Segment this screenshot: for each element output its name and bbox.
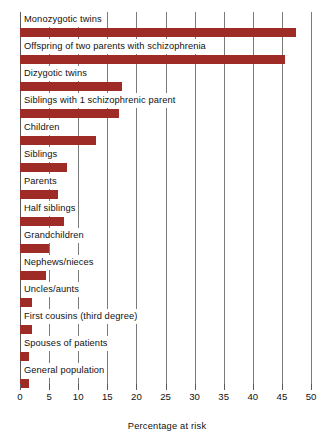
bar-category-label: Uncles/aunts xyxy=(23,282,81,297)
x-tick-mark xyxy=(136,384,137,390)
x-tick-label: 45 xyxy=(277,391,288,402)
x-tick-mark xyxy=(282,384,283,390)
x-tick-label: 0 xyxy=(17,391,22,402)
x-axis-title: Percentage at risk xyxy=(0,421,334,431)
bar-category-label: Siblings xyxy=(23,147,59,162)
x-tick-mark xyxy=(20,384,21,390)
bar-row: Dizygotic twins xyxy=(20,66,311,93)
x-tick-mark xyxy=(195,384,196,390)
bar-row: Siblings xyxy=(20,147,311,174)
bar xyxy=(20,271,46,280)
bar xyxy=(20,109,119,118)
bar-category-label: Half siblings xyxy=(23,201,77,216)
bar xyxy=(20,352,29,361)
bar xyxy=(20,325,32,334)
bar xyxy=(20,190,58,199)
bar xyxy=(20,163,67,172)
bar-category-label: Siblings with 1 schizophrenic parent xyxy=(23,93,177,108)
bar-category-label: Nephews/nieces xyxy=(23,255,96,270)
bar-row: Monozygotic twins xyxy=(20,12,311,39)
bar xyxy=(20,28,296,37)
bar-category-label: Grandchildren xyxy=(23,228,86,243)
x-tick-mark xyxy=(107,384,108,390)
bar-row: Siblings with 1 schizophrenic parent xyxy=(20,93,311,120)
bar-category-label: Spouses of patients xyxy=(23,336,110,351)
bar-row: Half siblings xyxy=(20,201,311,228)
x-tick-mark xyxy=(49,384,50,390)
x-tick-mark xyxy=(253,384,254,390)
x-tick-mark xyxy=(166,384,167,390)
risk-bar-chart: Monozygotic twinsOffspring of two parent… xyxy=(0,0,334,446)
bar-category-label: Children xyxy=(23,120,61,135)
x-axis: 05101520253035404550 xyxy=(20,390,311,408)
x-tick-label: 10 xyxy=(73,391,84,402)
bar xyxy=(20,379,29,388)
x-tick-label: 30 xyxy=(189,391,200,402)
bar-row: Offspring of two parents with schizophre… xyxy=(20,39,311,66)
bar xyxy=(20,298,32,307)
bar xyxy=(20,244,49,253)
bar-row: Children xyxy=(20,120,311,147)
x-tick-label: 40 xyxy=(247,391,258,402)
bar-category-label: General population xyxy=(23,363,106,378)
bar-row: Uncles/aunts xyxy=(20,282,311,309)
bar-category-label: Parents xyxy=(23,174,59,189)
x-tick-label: 25 xyxy=(160,391,171,402)
x-tick-label: 20 xyxy=(131,391,142,402)
x-tick-label: 50 xyxy=(306,391,317,402)
bar-category-label: Offspring of two parents with schizophre… xyxy=(23,39,208,54)
gridline-50 xyxy=(311,12,312,390)
x-tick-mark xyxy=(224,384,225,390)
bar xyxy=(20,217,64,226)
bar-category-label: First cousins (third degree) xyxy=(23,309,139,324)
x-tick-label: 35 xyxy=(218,391,229,402)
x-tick-mark xyxy=(311,384,312,390)
bar-row: Nephews/nieces xyxy=(20,255,311,282)
bar-row: Spouses of patients xyxy=(20,336,311,363)
x-tick-label: 5 xyxy=(46,391,51,402)
bar-series: Monozygotic twinsOffspring of two parent… xyxy=(20,12,311,390)
bar xyxy=(20,82,122,91)
bar-row: Grandchildren xyxy=(20,228,311,255)
bar-row: Parents xyxy=(20,174,311,201)
x-tick-mark xyxy=(78,384,79,390)
bar xyxy=(20,55,285,64)
plot-area: Monozygotic twinsOffspring of two parent… xyxy=(20,12,311,390)
bar-row: First cousins (third degree) xyxy=(20,309,311,336)
bar-category-label: Dizygotic twins xyxy=(23,66,89,81)
x-tick-label: 15 xyxy=(102,391,113,402)
bar xyxy=(20,136,96,145)
bar-category-label: Monozygotic twins xyxy=(23,12,104,27)
